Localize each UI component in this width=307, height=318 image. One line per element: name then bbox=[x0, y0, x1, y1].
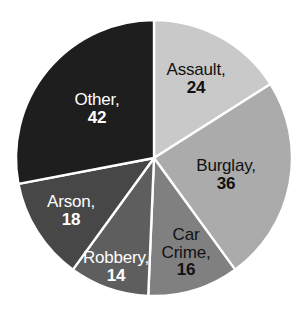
pie-chart: Assault,24Burglay,36CarCrime,16Robbery,1… bbox=[0, 0, 307, 318]
pie-slice-other[interactable] bbox=[16, 20, 154, 184]
pie-chart-canvas bbox=[0, 0, 307, 318]
